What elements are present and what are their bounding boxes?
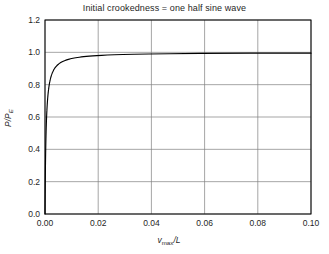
- y-tick-label: 0.6: [28, 112, 40, 122]
- x-tick-label: 0.04: [143, 218, 160, 228]
- data-series-curve: [45, 53, 311, 214]
- y-tick-label: 0.8: [28, 80, 40, 90]
- y-tick-label: 1.2: [28, 15, 40, 25]
- x-tick-label: 0.06: [196, 218, 213, 228]
- curve-path: [45, 53, 311, 214]
- y-gridlines: [45, 20, 311, 214]
- y-tick-labels: 0.00.20.40.60.81.01.2: [28, 15, 40, 219]
- x-tick-label: 0.00: [37, 218, 54, 228]
- y-tick-label: 0.2: [28, 177, 40, 187]
- chart-figure: Initial crookedness = one half sine wave…: [0, 0, 329, 254]
- x-tick-label: 0.08: [250, 218, 267, 228]
- svg-text:P/PE: P/PE: [3, 108, 14, 127]
- svg-text:vmax/L: vmax/L: [157, 235, 180, 246]
- x-axis-title: vmax/L: [157, 235, 180, 246]
- y-axis-title: P/PE: [3, 108, 14, 127]
- y-tick-label: 0.0: [28, 209, 40, 219]
- chart-plot-area: 0.000.020.040.060.080.10 0.00.20.40.60.8…: [0, 0, 329, 254]
- x-tick-labels: 0.000.020.040.060.080.10: [37, 218, 320, 228]
- x-tick-label: 0.02: [90, 218, 107, 228]
- y-tick-label: 0.4: [28, 144, 40, 154]
- x-tick-label: 0.10: [303, 218, 320, 228]
- y-tick-label: 1.0: [28, 47, 40, 57]
